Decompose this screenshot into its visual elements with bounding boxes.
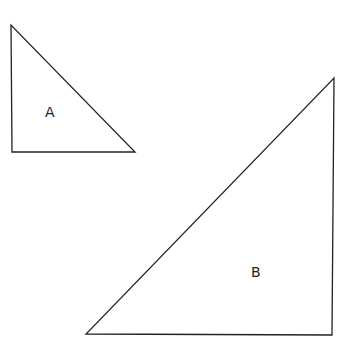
- triangle-a: [11, 25, 135, 152]
- triangle-b-label: B: [251, 264, 261, 280]
- triangle-diagram: A B: [0, 0, 344, 348]
- triangle-b: [86, 78, 334, 335]
- triangle-a-label: A: [45, 104, 55, 120]
